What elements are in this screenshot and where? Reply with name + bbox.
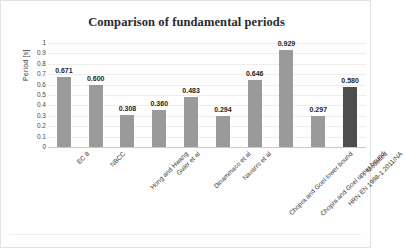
bar-slot: 0.580 xyxy=(334,43,366,147)
bar-slot: 0.308 xyxy=(112,43,144,147)
bar[interactable] xyxy=(152,110,166,147)
y-axis-tick-label: 1 xyxy=(29,40,46,47)
bar[interactable] xyxy=(57,77,71,147)
bar-slot: 0.929 xyxy=(271,43,303,147)
chart-title: Comparison of fundamental periods xyxy=(1,15,372,30)
bar[interactable] xyxy=(311,116,325,147)
bar-value-label: 0.646 xyxy=(246,70,264,77)
bar-value-label: 0.483 xyxy=(182,87,200,94)
y-axis-tick-label: 0.6 xyxy=(29,82,46,89)
bar-slot: 0.483 xyxy=(175,43,207,147)
bottom-divider xyxy=(9,234,361,235)
bar-slot: 0.600 xyxy=(80,43,112,147)
y-axis-tick-label: 0 xyxy=(29,144,46,151)
bar[interactable] xyxy=(184,97,198,147)
y-axis-tick-label: 0.8 xyxy=(29,61,46,68)
y-axis-tick-label: 0.9 xyxy=(29,50,46,57)
y-axis-tick-label: 0.4 xyxy=(29,102,46,109)
bar-slot: 0.294 xyxy=(207,43,239,147)
bar-value-label: 0.294 xyxy=(214,106,232,113)
bar-value-label: 0.308 xyxy=(119,105,137,112)
bar[interactable] xyxy=(279,50,293,147)
bar[interactable] xyxy=(216,116,230,147)
x-axis-category-labels: EC 8NBCCHong and HwangGuler et alDinamma… xyxy=(48,148,366,248)
bar-value-label: 0.929 xyxy=(278,40,296,47)
y-axis-tick-label: 0.3 xyxy=(29,113,46,120)
y-axis-tick-label: 0.2 xyxy=(29,123,46,130)
bar-slot: 0.646 xyxy=(239,43,271,147)
y-axis-tick-label: 0.1 xyxy=(29,134,46,141)
bar[interactable] xyxy=(89,85,103,147)
bar-slot: 0.360 xyxy=(143,43,175,147)
bar[interactable] xyxy=(343,87,357,147)
x-axis-category-label: EC 8 xyxy=(75,150,90,165)
x-axis-category-label: NBCC xyxy=(108,150,126,168)
bar[interactable] xyxy=(248,80,262,147)
bar[interactable] xyxy=(120,115,134,147)
y-axis-title: Period [s] xyxy=(22,11,29,81)
chart-figure: Comparison of fundamental periods Period… xyxy=(0,0,371,248)
bar-slot: 0.671 xyxy=(48,43,80,147)
bar-value-label: 0.671 xyxy=(55,67,73,74)
bar-value-label: 0.600 xyxy=(87,75,105,82)
bar-slot: 0.297 xyxy=(302,43,334,147)
y-axis-tick-label: 0.5 xyxy=(29,92,46,99)
plot-area: 0.6710.6000.3080.3600.4830.2940.6460.929… xyxy=(48,43,366,147)
y-axis-tick-labels: 10.90.80.70.60.50.40.30.20.10 xyxy=(29,43,46,147)
y-axis-tick-label: 0.7 xyxy=(29,71,46,78)
bar-value-label: 0.360 xyxy=(151,100,169,107)
bar-value-label: 0.297 xyxy=(310,106,328,113)
x-axis-category-label: Chopra and Goel lower bound xyxy=(287,150,353,216)
bar-value-label: 0.580 xyxy=(341,77,359,84)
